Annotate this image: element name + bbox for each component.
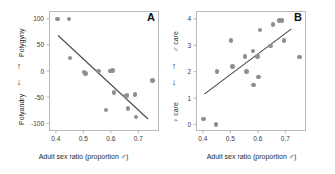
data-point [256,75,261,80]
regression-line [204,29,291,94]
plot-layer-a [0,0,167,174]
x-tick-label: 0.6 [100,135,122,142]
x-tick-label: 0.4 [45,135,67,142]
panel-a: A 100500-50-100 0.40.50.60.7 Adult sex r… [0,0,167,174]
data-point [255,54,260,59]
x-tick-label: 0.7 [127,135,149,142]
x-axis-label-b: Adult sex ratio (proportion ♂) [168,152,335,161]
y-axis-label-bottom-b: ♀ care [172,102,180,123]
x-tick-label: 0.5 [72,135,94,142]
arrow-up-icon-b: ↑ [169,62,179,71]
data-point [96,69,101,74]
data-point [125,93,130,98]
data-point [110,68,115,73]
data-point [243,54,248,59]
data-point [133,92,138,97]
arrow-up-icon-a: ↑ [14,62,24,71]
data-point [201,117,206,122]
x-tick-label: 0.5 [219,135,241,142]
arrow-down-icon-b: ↓ [169,78,179,87]
data-point [282,38,287,43]
data-point [280,18,285,23]
data-point [126,106,131,111]
data-point [83,71,88,76]
y-axis-label-top-a: Polygyny [18,29,26,57]
data-point [214,122,219,127]
figure-container: A 100500-50-100 0.40.50.60.7 Adult sex r… [0,0,335,174]
y-axis-label-top-b: ♂ care [172,31,180,52]
data-point [268,44,273,49]
data-point [230,64,235,69]
y-axis-label-bottom-a: Polyandry [18,94,26,125]
data-point [251,83,256,88]
y-tick-label: 1 [168,95,191,102]
x-axis-label-a: Adult sex ratio (proportion ♂) [0,152,167,161]
arrow-down-icon-a: ↓ [14,78,24,87]
data-point [55,17,60,22]
data-point [244,69,249,74]
x-tick-label: 0.6 [247,135,269,142]
x-tick-label: 0.4 [192,135,214,142]
regression-line [58,36,148,119]
y-tick-label: 100 [0,15,44,22]
data-point [150,78,155,83]
panel-b: B 43210 0.40.50.60.7 Adult sex ratio (pr… [168,0,335,174]
plot-layer-b [168,0,335,174]
x-tick-label: 0.7 [274,135,296,142]
y-tick-label: 4 [168,15,191,22]
